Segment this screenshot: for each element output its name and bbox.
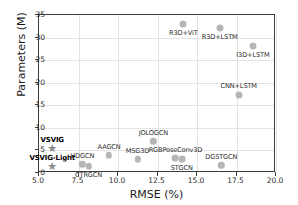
y-axis-tick-label: 0 bbox=[31, 168, 45, 177]
data-point-marker[interactable] bbox=[249, 42, 256, 49]
data-point-label: MSG3D bbox=[126, 147, 150, 155]
gridline-horizontal bbox=[39, 60, 274, 61]
data-point-label: VSVIG bbox=[40, 136, 63, 144]
y-axis-tick-label: 20 bbox=[31, 77, 45, 86]
x-axis-tick bbox=[236, 172, 237, 176]
x-axis-tick-label: 15.0 bbox=[188, 176, 205, 185]
x-axis-tick bbox=[157, 172, 158, 176]
data-point-label: CTRGCN bbox=[75, 171, 102, 179]
data-point-label: AAGCN bbox=[98, 143, 121, 151]
data-point-label: RGBPoseConv3D bbox=[149, 146, 203, 154]
y-axis-tick-label: 15 bbox=[31, 100, 45, 109]
x-axis-tick-label: 12.5 bbox=[148, 176, 165, 185]
data-point-label: VSVIG-Light bbox=[29, 154, 75, 162]
data-point-label: JOLOGCN bbox=[139, 129, 168, 137]
data-point-label: R3D+LSTM bbox=[202, 33, 238, 41]
x-axis-tick-label: 17.5 bbox=[227, 176, 244, 185]
x-axis-tick bbox=[275, 172, 276, 176]
gridline-vertical bbox=[276, 15, 277, 171]
data-point-marker[interactable] bbox=[178, 156, 185, 163]
data-point-label: DGSTGCN bbox=[205, 153, 237, 161]
x-axis-tick-label: 5.0 bbox=[32, 176, 44, 185]
data-point-label: I3D+LSTM bbox=[236, 51, 269, 59]
data-point-marker[interactable] bbox=[235, 91, 242, 98]
gridline-horizontal bbox=[39, 38, 274, 39]
data-point-marker[interactable] bbox=[216, 24, 223, 31]
x-axis-title: RMSE (%) bbox=[38, 188, 275, 201]
data-point-marker[interactable] bbox=[180, 21, 187, 28]
y-axis-tick-label: 30 bbox=[31, 32, 45, 41]
x-axis-tick-label: 20.0 bbox=[267, 176, 284, 185]
data-point-star[interactable]: ★ bbox=[47, 161, 57, 172]
y-axis-tick-label: 5 bbox=[31, 145, 45, 154]
gridline-horizontal bbox=[39, 105, 274, 106]
x-axis-tick bbox=[117, 172, 118, 176]
y-axis-tick-label: 25 bbox=[31, 55, 45, 64]
data-point-label: CNN+LSTM bbox=[220, 82, 256, 90]
data-point-label: STGCN bbox=[171, 164, 193, 172]
data-point-label: R3D+ViT bbox=[169, 29, 198, 37]
scatter-chart-figure: Parameters (M) RMSE (%) 5.07.510.012.515… bbox=[0, 0, 298, 205]
x-axis-tick bbox=[196, 172, 197, 176]
y-axis-tick-label: 10 bbox=[31, 122, 45, 131]
y-axis-title: Parameters (M) bbox=[15, 0, 28, 120]
data-point-star[interactable]: ★ bbox=[47, 143, 57, 154]
x-axis-tick-label: 10.0 bbox=[109, 176, 126, 185]
y-axis-tick-label: 35 bbox=[31, 10, 45, 19]
